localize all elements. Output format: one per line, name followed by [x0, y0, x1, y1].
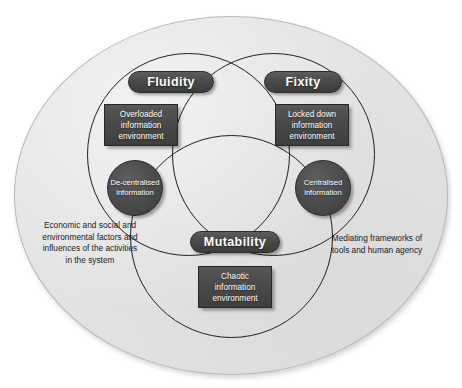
- node-locked-down-information-environment: Locked down information environment: [275, 104, 349, 146]
- annotation-right: Mediating frameworks of tools and human …: [318, 233, 436, 256]
- annotation-left-line-4: in the system: [32, 255, 148, 267]
- label-fluidity-text: Fluidity: [147, 75, 195, 89]
- node-overloaded-line-3: environment: [118, 131, 163, 142]
- annotation-left-line-2: environmental factors and: [32, 232, 148, 244]
- annotation-right-line-2: tools and human agency: [318, 245, 436, 257]
- node-locked-down-line-1: Locked down: [288, 109, 336, 120]
- node-centralised-line-2: information: [304, 188, 342, 198]
- node-chaotic-line-2: information: [215, 282, 256, 293]
- annotation-left: Economic and social and environmental fa…: [32, 220, 148, 266]
- node-chaotic-line-1: Chaotic: [221, 271, 249, 282]
- label-mutability: Mutability: [190, 231, 280, 253]
- node-overloaded-line-1: Overloaded: [120, 109, 162, 120]
- label-fixity: Fixity: [264, 71, 342, 93]
- node-centralised-information: Centralised information: [295, 160, 351, 216]
- node-chaotic-line-3: environment: [212, 293, 257, 304]
- node-de-centralised-line-1: De-centralised: [111, 178, 160, 188]
- annotation-right-line-1: Mediating frameworks of: [318, 233, 436, 245]
- node-de-centralised-information: De-centralised information: [107, 160, 163, 216]
- diagram-canvas: Fluidity Fixity Mutability Overloaded in…: [0, 0, 462, 388]
- label-fixity-text: Fixity: [285, 75, 320, 89]
- annotation-left-line-3: influences of the activities: [32, 243, 148, 255]
- node-chaotic-information-environment: Chaotic information environment: [198, 266, 272, 308]
- label-mutability-text: Mutability: [204, 235, 266, 249]
- node-de-centralised-line-2: information: [116, 188, 154, 198]
- node-locked-down-line-2: information: [292, 120, 333, 131]
- node-overloaded-information-environment: Overloaded information environment: [104, 104, 178, 146]
- node-overloaded-line-2: information: [121, 120, 162, 131]
- annotation-left-line-1: Economic and social and: [32, 220, 148, 232]
- node-locked-down-line-3: environment: [289, 131, 334, 142]
- label-fluidity: Fluidity: [128, 71, 214, 93]
- node-centralised-line-1: Centralised: [304, 178, 342, 188]
